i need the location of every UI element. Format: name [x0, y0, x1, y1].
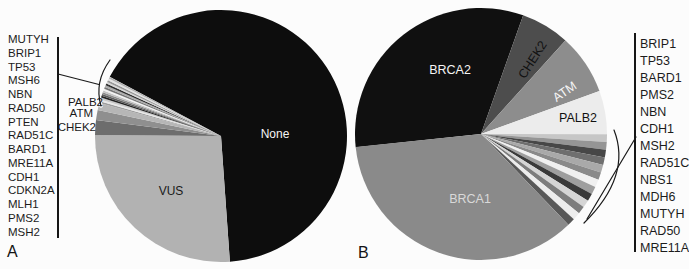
pie-b-label-brca1: BRCA1: [449, 192, 491, 206]
gene-list-item: RAD50: [640, 223, 689, 240]
gene-list-item: NBN: [8, 88, 55, 102]
gene-list-item: PMS2: [640, 87, 689, 104]
gene-list-item: CDH1: [640, 121, 689, 138]
gene-list-item: RAD51C: [640, 155, 689, 172]
pie-a-label-palb2: PALB2: [68, 96, 103, 108]
gene-list-item: BARD1: [8, 143, 55, 157]
gene-list-item: PMS2: [8, 212, 55, 226]
panel-a-gene-list: MUTYHBRIP1TP53MSH6NBNRAD50PTENRAD51CBARD…: [8, 33, 55, 239]
panel-b-gene-list-rule: [634, 33, 636, 252]
gene-list-item: RAD50: [8, 102, 55, 116]
gene-list-item: NBS1: [640, 172, 689, 189]
gene-list-item: PTEN: [8, 116, 55, 130]
panel-a-gene-list-rule: [57, 37, 59, 238]
pie-charts-layer: NoneVUSCHEK2ATMPALB2 BRCA2CHEK2ATMPALB2B…: [0, 0, 689, 269]
gene-list-item: TP53: [8, 61, 55, 75]
callout-line: [58, 74, 99, 85]
panel-b-gene-list: BRIP1TP53BARD1PMS2NBNCDH1MSH2RAD51CNBS1M…: [640, 36, 689, 257]
gene-list-item: MLH1: [8, 198, 55, 212]
panel-a-label: A: [7, 243, 18, 261]
gene-list-item: BARD1: [640, 70, 689, 87]
figure-canvas: NoneVUSCHEK2ATMPALB2 BRCA2CHEK2ATMPALB2B…: [0, 0, 689, 269]
gene-list-item: TP53: [640, 53, 689, 70]
pie-b-label-brca2: BRCA2: [429, 63, 471, 77]
pie-a-label-vus: VUS: [159, 184, 184, 198]
pie-a-label-atm: ATM: [70, 107, 93, 119]
pie-a-label-chek2: CHEK2: [58, 121, 96, 133]
gene-list-item: BRIP1: [8, 47, 55, 61]
gene-list-item: MUTYH: [8, 33, 55, 47]
pie-b: [355, 8, 607, 260]
panel-b-label: B: [358, 244, 369, 262]
gene-list-item: MRE11A: [640, 240, 689, 257]
gene-list-item: CDH1: [8, 171, 55, 185]
gene-list-item: MRE11A: [8, 157, 55, 171]
gene-list-item: MSH2: [640, 138, 689, 155]
gene-list-item: RAD51C: [8, 129, 55, 143]
pie-a: [95, 10, 347, 262]
gene-list-item: MDH6: [640, 189, 689, 206]
gene-list-item: MSH2: [8, 226, 55, 240]
pie-b-label-palb2: PALB2: [559, 111, 597, 125]
pie-a-slice-vus: [95, 135, 230, 262]
gene-list-item: MSH6: [8, 74, 55, 88]
gene-list-item: MUTYH: [640, 206, 689, 223]
gene-list-item: BRIP1: [640, 36, 689, 53]
gene-list-item: CDKN2A: [8, 184, 55, 198]
pie-a-label-none: None: [261, 127, 290, 141]
gene-list-item: NBN: [640, 104, 689, 121]
